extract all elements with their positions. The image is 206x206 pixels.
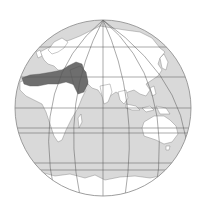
globe-svg <box>0 0 206 206</box>
globe-map <box>0 0 206 206</box>
